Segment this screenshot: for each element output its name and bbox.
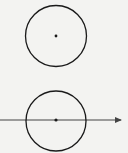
- top-figure: [26, 6, 87, 67]
- bottom-figure: [0, 91, 121, 151]
- diagram-canvas: [0, 0, 128, 153]
- top-circle-center-point: [55, 35, 58, 38]
- bottom-circle-center-point: [54, 118, 57, 121]
